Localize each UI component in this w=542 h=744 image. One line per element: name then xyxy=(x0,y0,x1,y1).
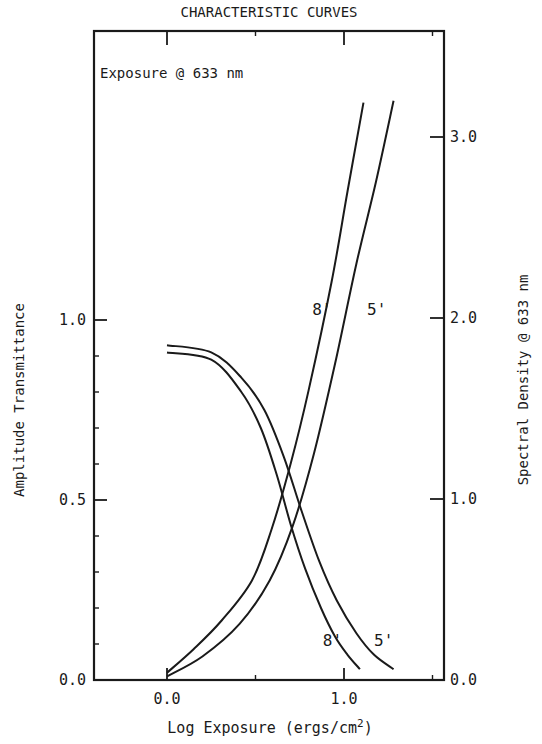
y-left-tick-label: 0.5 xyxy=(59,491,86,509)
y-right-tick-label: 2.0 xyxy=(450,309,477,327)
x-tick-label: 0.0 xyxy=(153,690,180,708)
curve-8-transmittance xyxy=(167,352,360,669)
y-left-tick-label: 0.0 xyxy=(59,671,86,689)
y-right-tick-label: 1.0 xyxy=(450,490,477,508)
curve-label: 8' xyxy=(312,300,331,319)
y-left-tick-label: 1.0 xyxy=(59,311,86,329)
curves xyxy=(167,101,394,677)
y-axis-right-label: Spectral Density @ 633 nm xyxy=(515,275,531,486)
curve-5-transmittance xyxy=(167,345,394,669)
y-axis-left-label: Amplitude Transmittance xyxy=(11,303,27,497)
y-right-tick-label: 0.0 xyxy=(450,671,477,689)
curve-label: 5' xyxy=(367,300,386,319)
x-tick-label: 1.0 xyxy=(330,690,357,708)
x-axis-label: Log Exposure (ergs/cm2) xyxy=(167,717,372,737)
curve-label: 8' xyxy=(323,631,342,650)
chart-title: CHARACTERISTIC CURVES xyxy=(180,4,357,20)
characteristic-curves-chart: CHARACTERISTIC CURVES Exposure @ 633 nm … xyxy=(0,0,542,744)
y-right-tick-label: 3.0 xyxy=(450,128,477,146)
curve-label: 5' xyxy=(374,631,393,650)
exposure-annotation: Exposure @ 633 nm xyxy=(100,65,243,81)
curve-5-density xyxy=(167,101,394,677)
curve-labels: 8'5'8'5' xyxy=(312,300,393,650)
